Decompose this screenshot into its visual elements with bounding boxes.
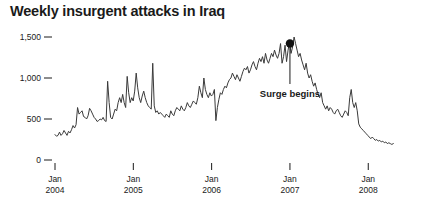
data-series-line (55, 37, 393, 144)
x-tick-label-month: Jan (361, 174, 375, 184)
x-tick-label-year: 2006 (202, 185, 221, 195)
chart-plot-area: 1,5001,0005000 Jan2004Jan2005Jan2006Jan2… (0, 0, 434, 205)
y-axis: 1,5001,0005000 (20, 32, 52, 165)
y-tick-label: 1,500 (20, 32, 42, 42)
x-tick-label-month: Jan (126, 174, 140, 184)
y-tick-label: 0 (36, 155, 41, 165)
data-series-group (55, 37, 393, 144)
annotation-label: Surge begins (260, 88, 320, 99)
y-tick-label: 500 (27, 114, 41, 124)
x-tick-label-month: Jan (205, 174, 219, 184)
x-tick-label-year: 2005 (124, 185, 143, 195)
chart-figure: Weekly insurgent attacks in Iraq 1,5001,… (0, 0, 434, 205)
x-tick-label-month: Jan (283, 174, 297, 184)
annotation-marker-dot (286, 39, 294, 47)
x-axis: Jan2004Jan2005Jan2006Jan2007Jan2008 (46, 163, 378, 195)
annotation-group: Surge begins (260, 39, 320, 99)
x-tick-label-month: Jan (48, 174, 62, 184)
x-tick-label-year: 2007 (280, 185, 299, 195)
x-tick-label-year: 2004 (46, 185, 65, 195)
x-tick-label-year: 2008 (359, 185, 378, 195)
y-tick-label: 1,000 (20, 73, 42, 83)
